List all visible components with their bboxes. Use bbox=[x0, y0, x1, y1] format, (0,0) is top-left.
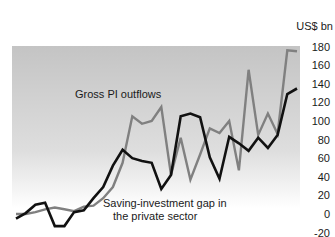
y-tick-label: 60 bbox=[318, 152, 330, 164]
y-tick-label: 180 bbox=[312, 41, 330, 53]
y-tick-label: 20 bbox=[318, 189, 330, 201]
y-axis-unit-label: US$ bn bbox=[296, 20, 333, 32]
y-tick-label: 120 bbox=[312, 96, 330, 108]
chart: 180160140120100806040200-20 US$ bn Gross… bbox=[0, 0, 335, 237]
y-tick-label: 0 bbox=[324, 208, 330, 220]
y-tick-label: 160 bbox=[312, 59, 330, 71]
annotation-saving-investment-line1: Saving-investment gap in bbox=[103, 197, 227, 209]
y-axis-ticks: 180160140120100806040200-20 bbox=[312, 41, 330, 237]
annotation-gross-pi-outflows: Gross PI outflows bbox=[75, 88, 162, 100]
y-tick-label: 80 bbox=[318, 134, 330, 146]
y-tick-label: 40 bbox=[318, 171, 330, 183]
y-tick-label: 140 bbox=[312, 78, 330, 90]
y-tick-label: 100 bbox=[312, 115, 330, 127]
annotation-saving-investment-line2: the private sector bbox=[113, 210, 198, 222]
y-tick-label: -20 bbox=[314, 227, 330, 237]
